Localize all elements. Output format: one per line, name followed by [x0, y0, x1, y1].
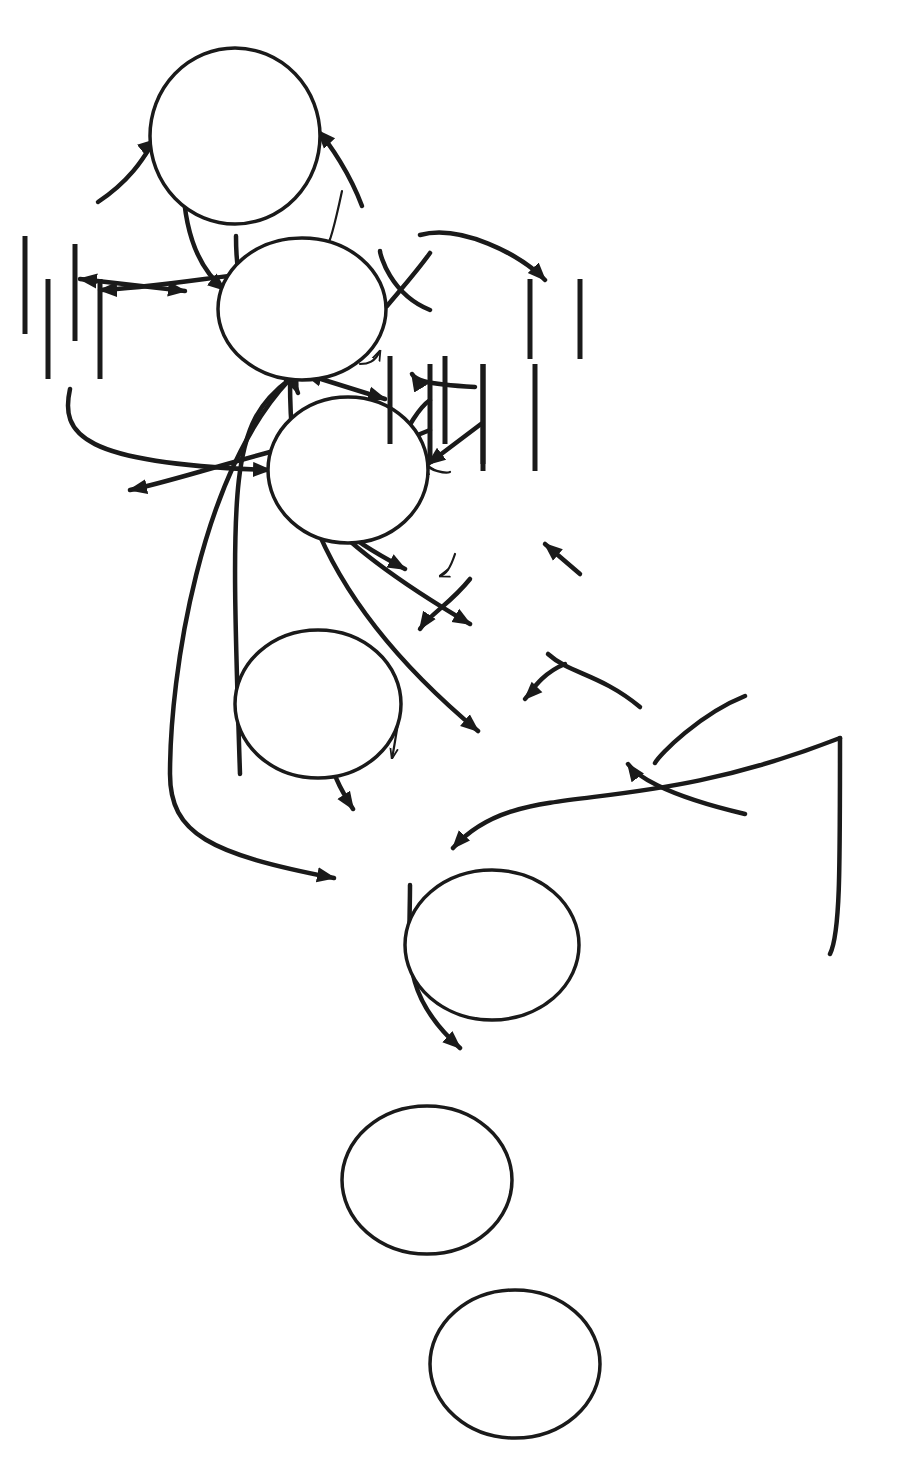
process-4 — [235, 630, 401, 778]
process-7-circle — [430, 1290, 600, 1438]
store-case — [430, 364, 483, 464]
process-1 — [150, 48, 320, 224]
flow-formal-p7 — [830, 738, 840, 954]
flow-informal-p6-base — [548, 654, 640, 707]
process-2-circle — [218, 238, 386, 380]
flow-input-5 — [440, 554, 455, 576]
flow-formal-p7-arrow — [453, 738, 840, 848]
flow-ada-packages — [420, 233, 545, 280]
process-6-circle — [342, 1106, 512, 1254]
flow-requirements — [318, 131, 362, 206]
process-5 — [405, 870, 579, 1020]
process-2 — [218, 238, 386, 380]
data-flow-diagram — [0, 0, 915, 1474]
flow-formal-p6-base — [655, 696, 745, 763]
process-1-circle — [150, 48, 320, 224]
process-3-circle — [268, 397, 428, 543]
flow-implementing-tools — [98, 140, 155, 202]
process-5-circle — [405, 870, 579, 1020]
process-6 — [342, 1106, 512, 1254]
store-system-related — [483, 364, 535, 471]
store-ada-packages — [530, 279, 580, 359]
flow-input-2-b — [326, 191, 342, 248]
flow-informal-p5 — [545, 544, 580, 574]
process-4-circle — [235, 630, 401, 778]
flow-system-related — [428, 424, 481, 464]
rotated-diagram-canvas — [0, 0, 915, 1474]
flow-informal-p6 — [525, 664, 565, 699]
process-3 — [268, 397, 428, 543]
process-7 — [430, 1290, 600, 1438]
